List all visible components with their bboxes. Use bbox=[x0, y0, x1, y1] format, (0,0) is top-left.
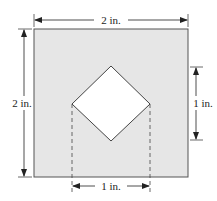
right-dimension-label: 1 in. bbox=[193, 97, 213, 109]
left-dimension-label: 2 in. bbox=[12, 97, 32, 109]
bottom-dimension: 1 in. bbox=[73, 180, 149, 192]
diagram-canvas: 2 in. 2 in. 1 in. 1 in. bbox=[0, 0, 217, 201]
left-dimension: 2 in. bbox=[12, 29, 32, 177]
right-dimension: 1 in. bbox=[190, 67, 213, 140]
top-dimension: 2 in. bbox=[34, 14, 188, 27]
top-dimension-label: 2 in. bbox=[101, 14, 121, 26]
bottom-dimension-label: 1 in. bbox=[101, 180, 121, 192]
